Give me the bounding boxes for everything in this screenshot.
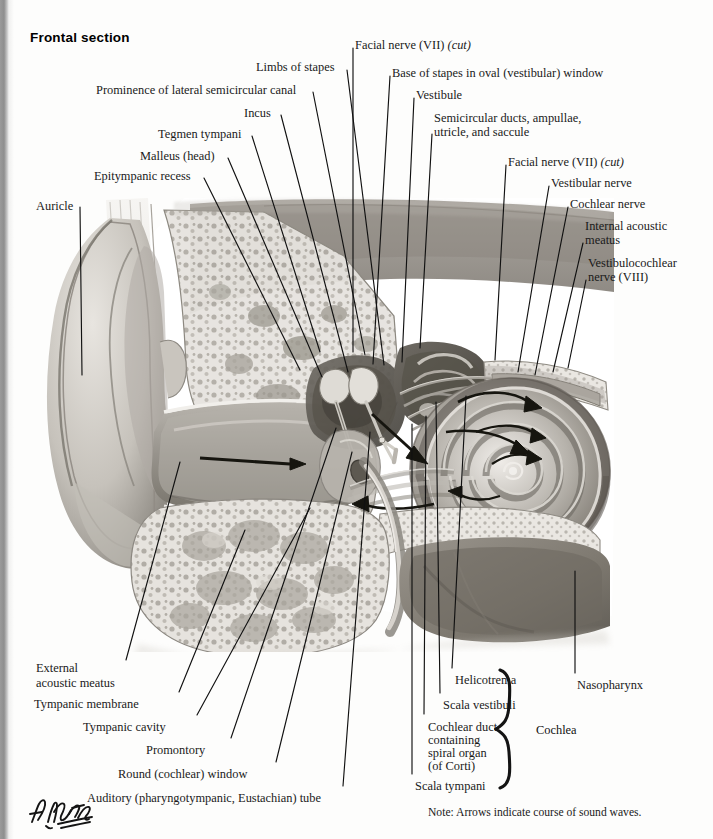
label-semicircular-ducts-l2: utricle, and saccule bbox=[434, 126, 529, 140]
page-title: Frontal section bbox=[30, 30, 130, 45]
cochlea-brace-label: Cochlea bbox=[536, 723, 577, 738]
label-prominence-lsc: Prominence of lateral semicircular canal bbox=[96, 84, 296, 98]
label-incus: Incus bbox=[244, 107, 271, 121]
label-semicircular-ducts-l1: Semicircular ducts, ampullae, bbox=[434, 112, 581, 126]
cochlea-brace bbox=[494, 668, 528, 790]
label-facial-nerve-vii-cut-top-italic: (cut) bbox=[448, 38, 471, 52]
ear-frontal-section-illustration bbox=[14, 196, 614, 652]
label-vestibular-nerve: Vestibular nerve bbox=[551, 177, 632, 191]
label-tympanic-cavity: Tympanic cavity bbox=[83, 721, 166, 735]
label-promontory: Promontory bbox=[146, 744, 205, 758]
sound-waves-note: Note: Arrows indicate course of sound wa… bbox=[428, 806, 641, 819]
label-external-acoustic-meatus-l1: External bbox=[36, 662, 78, 676]
label-external-acoustic-meatus-l2: acoustic meatus bbox=[36, 677, 115, 691]
label-epitympanic-recess: Epitympanic recess bbox=[94, 170, 191, 184]
label-tegmen-tympani: Tegmen tympani bbox=[158, 128, 241, 142]
label-auricle: Auricle bbox=[36, 200, 73, 214]
label-tympanic-membrane: Tympanic membrane bbox=[34, 698, 139, 712]
label-malleus-head: Malleus (head) bbox=[140, 150, 215, 164]
label-cochlear-duct-l4: (of Corti) bbox=[428, 760, 475, 774]
illustration-page: Frontal section bbox=[0, 0, 713, 839]
lower-bone-field bbox=[131, 499, 389, 652]
label-facial-nerve-vii-cut-right: Facial nerve (VII) (cut) bbox=[508, 156, 624, 170]
label-facial-nerve-vii-cut-top: Facial nerve (VII) (cut) bbox=[355, 39, 471, 53]
book-gutter-shadow bbox=[0, 0, 9, 839]
label-vestibulocochlear-l2: nerve (VIII) bbox=[588, 271, 648, 285]
nasopharynx bbox=[399, 537, 610, 642]
label-round-cochlear-window: Round (cochlear) window bbox=[118, 768, 247, 782]
label-cochlear-nerve: Cochlear nerve bbox=[570, 198, 645, 212]
label-limbs-of-stapes: Limbs of stapes bbox=[256, 61, 334, 75]
label-vestibulocochlear-l1: Vestibulocochlear bbox=[588, 257, 677, 271]
label-base-of-stapes: Base of stapes in oval (vestibular) wind… bbox=[392, 67, 603, 81]
label-vestibule: Vestibule bbox=[416, 89, 462, 103]
label-nasopharynx: Nasopharynx bbox=[577, 679, 643, 693]
label-internal-acoustic-meatus-l1: Internal acoustic bbox=[585, 220, 667, 234]
label-scala-tympani: Scala tympani bbox=[415, 780, 486, 794]
artist-signature bbox=[28, 792, 100, 834]
label-auditory-tube: Auditory (pharyngotympanic, Eustachian) … bbox=[87, 792, 321, 806]
label-internal-acoustic-meatus-l2: meatus bbox=[585, 234, 620, 248]
label-facial-nerve-vii-cut-right-italic: (cut) bbox=[601, 155, 624, 169]
